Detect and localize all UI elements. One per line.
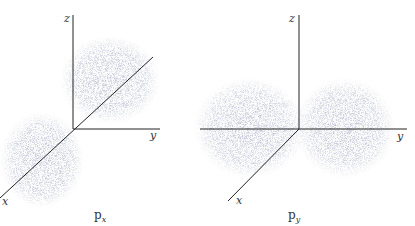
- px-caption: px: [94, 209, 106, 224]
- py-lobe-right: [295, 78, 395, 178]
- px-lobe-front: [0, 112, 84, 208]
- px-orbital: [0, 15, 160, 208]
- py-z-label: z: [289, 13, 295, 24]
- py-caption: py: [288, 209, 300, 224]
- orbital-diagram: [0, 0, 415, 226]
- py-x-label: x: [236, 195, 242, 206]
- px-y-label: y: [150, 130, 156, 141]
- px-z-label: z: [64, 13, 70, 24]
- py-orbital: [194, 15, 407, 201]
- px-x-label: x: [2, 196, 8, 207]
- py-y-label: y: [397, 131, 403, 142]
- px-lobe-back: [60, 36, 160, 124]
- py-lobe-left: [194, 78, 306, 178]
